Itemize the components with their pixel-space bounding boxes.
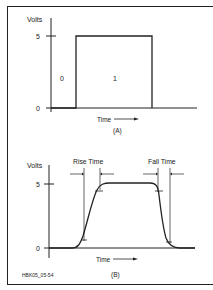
panel-a-ytick-0: 0 [36, 105, 40, 112]
panel-a: Volts 5 0 0 1 Time (A) [27, 16, 197, 135]
panel-b-ytick-5: 5 [36, 181, 40, 188]
panel-a-square-pulse [51, 36, 152, 108]
fall-time-label: Fall Time [148, 158, 176, 165]
panel-b-xlabel: Time [96, 256, 111, 263]
panel-a-ytick-5: 5 [36, 33, 40, 40]
panel-b-caption: (B) [111, 271, 120, 279]
time-arrow-icon [134, 118, 139, 121]
figure-id: HBK05_05-54 [22, 272, 54, 278]
panel-b-real-pulse [49, 183, 195, 248]
panel-a-caption: (A) [113, 127, 122, 135]
panel-b-ylabel: Volts [27, 162, 43, 169]
panel-b-ytick-0: 0 [36, 245, 40, 252]
panel-a-xlabel: Time [97, 116, 112, 123]
time-arrow-icon [133, 258, 138, 261]
rise-time-label: Rise Time [73, 158, 103, 165]
panel-b: Volts 5 0 Rise Time Fall Time Time (B) H… [22, 158, 195, 279]
pulse-diagram: Volts 5 0 0 1 Time (A) Volts 5 0 Rise Ti… [0, 0, 213, 290]
panel-a-ylabel: Volts [27, 16, 43, 23]
panel-a-state-low: 0 [60, 75, 64, 82]
panel-a-state-high: 1 [113, 75, 117, 82]
